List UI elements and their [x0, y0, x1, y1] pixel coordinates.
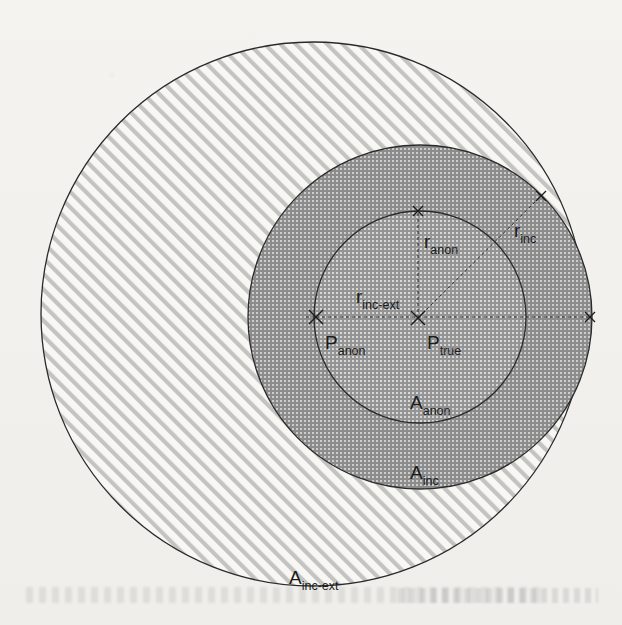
- label-a-anon-base: A: [410, 392, 423, 413]
- label-p-anon-sub: anon: [338, 344, 366, 358]
- label-a-anon-sub: anon: [423, 404, 451, 418]
- label-a-inc-ext-sub: inc-ext: [302, 579, 339, 593]
- label-a-inc-base: A: [410, 462, 423, 483]
- circle-diagram-svg: ranon rinc rinc-ext Panon Ptrue Aanon Ai…: [0, 0, 622, 625]
- label-p-true-sub: true: [440, 344, 462, 358]
- label-r-anon-sub: anon: [430, 243, 458, 257]
- label-r-inc-ext-sub: inc-ext: [362, 298, 399, 312]
- label-r-inc-sub: inc: [520, 232, 536, 246]
- diagram-stage: ranon rinc rinc-ext Panon Ptrue Aanon Ai…: [0, 0, 622, 625]
- label-p-anon-base: P: [325, 332, 338, 353]
- label-a-inc-ext-base: A: [289, 567, 302, 588]
- label-a-inc-sub: inc: [423, 474, 439, 488]
- label-p-true-base: P: [427, 332, 440, 353]
